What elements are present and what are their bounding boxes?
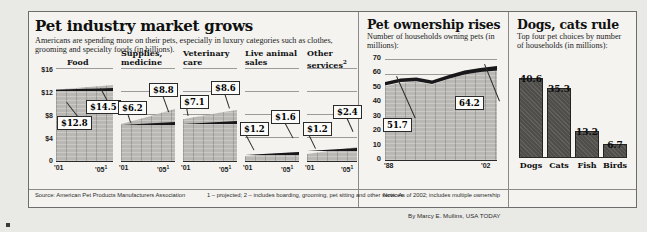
callout-live-animal-start: $1.2 (240, 122, 269, 136)
page-speck (6, 223, 10, 227)
x-tick-other-services-start: '01 (305, 164, 314, 171)
source-line: Source: American Pet Products Manufactur… (35, 192, 185, 198)
small-multiples-group: $16 $12 $8 $4 0 Food $12.8 $14.5 '01 '05… (35, 50, 355, 180)
y-tick-16: $16 (31, 66, 53, 73)
mid-y-tick-10: 10 (359, 140, 381, 149)
byline: By Marcy E. Mullins, USA TODAY (408, 212, 501, 219)
chart-title-live-animal: Live animal sales (245, 49, 297, 67)
bar-value-cats: 35.3 (545, 84, 573, 94)
bar-label-cats: Cats (545, 160, 573, 170)
panel-pet-ownership: Pet ownership rises Number of households… (359, 12, 509, 207)
mid-y-tick-40: 40 (359, 96, 381, 105)
x-tick-supplies-end: '051 (157, 164, 169, 173)
x-tick-veterinary-start: '01 (181, 164, 190, 171)
infographic-container: Pet industry market grows Americans are … (28, 11, 637, 208)
chart-title-veterinary: Veterinary care (183, 49, 231, 67)
chart-title-supplies: Supplies, medicine (121, 49, 169, 67)
x-tick-other-services-end: '051 (341, 164, 353, 173)
bar-label-dogs: Dogs (517, 160, 545, 170)
callout-food-end: $14.5 (86, 100, 121, 114)
chart-title-other-services: Other services2 (307, 49, 357, 70)
bar-dogs (519, 78, 543, 158)
mid-y-tick-30: 30 (359, 111, 381, 120)
mid-y-tick-0: 0 (359, 154, 381, 163)
right-headline: Dogs, cats rule (517, 18, 630, 31)
x-tick-food-end: '051 (95, 164, 107, 173)
mid-x-tick-end: '02 (481, 162, 490, 169)
x-tick-food-start: '01 (54, 164, 63, 171)
x-tick-veterinary-end: '051 (219, 164, 231, 173)
mid-y-tick-20: 20 (359, 125, 381, 134)
mid-y-tick-60: 60 (359, 67, 381, 76)
bar-value-birds: 6.7 (601, 140, 629, 150)
mid-note: Note: As of 2002; includes multiple owne… (383, 192, 500, 198)
y-tick-8: $8 (31, 112, 53, 119)
panel-dogs-cats-rule: Dogs, cats rule Top four pet choices by … (509, 12, 636, 207)
panel-pet-industry: Pet industry market grows Americans are … (29, 12, 359, 207)
callout-supplies-start: $6.2 (118, 101, 147, 115)
chart-pet-ownership: 51.7 64.2 '88 '02 (385, 56, 497, 172)
callout-live-animal-end: $1.6 (271, 110, 300, 124)
callout-other-services-start: $1.2 (303, 122, 332, 136)
callout-supplies-end: $8.8 (149, 83, 178, 97)
chart-top-pets: 40.6 35.3 13.2 6.7 Dogs Cats Fish Birds (519, 70, 627, 170)
bar-value-fish: 13.2 (573, 127, 601, 137)
mid-dek: Number of households owning pets (in mil… (367, 32, 502, 50)
mid-y-tick-50: 50 (359, 82, 381, 91)
bar-label-birds: Birds (601, 160, 629, 170)
y-tick-12: $12 (31, 89, 53, 96)
bar-cats (547, 88, 571, 158)
y-tick-0: 0 (31, 157, 53, 164)
right-dek: Top four pet choices by number of househ… (517, 32, 630, 50)
left-headline: Pet industry market grows (35, 18, 353, 34)
mid-headline: Pet ownership rises (367, 18, 502, 31)
x-tick-live-animal-end: '051 (281, 164, 293, 173)
callout-veterinary-start: $7.1 (180, 95, 209, 109)
y-tick-4: $4 (31, 135, 53, 142)
bar-value-dogs: 40.6 (517, 74, 545, 84)
x-tick-live-animal-start: '01 (243, 164, 252, 171)
bar-label-fish: Fish (573, 160, 601, 170)
callout-other-services-end: $2.4 (333, 105, 362, 119)
chart-food (56, 68, 113, 162)
chart-title-food: Food (67, 58, 89, 67)
callout-ownership-end: 64.2 (455, 96, 484, 110)
mid-y-tick-70: 70 (359, 53, 381, 62)
mid-x-tick-start: '88 (384, 162, 393, 169)
callout-food-start: $12.8 (57, 116, 92, 130)
x-tick-supplies-start: '01 (119, 164, 128, 171)
callout-veterinary-end: $8.6 (211, 81, 240, 95)
callout-ownership-start: 51.7 (383, 118, 412, 132)
